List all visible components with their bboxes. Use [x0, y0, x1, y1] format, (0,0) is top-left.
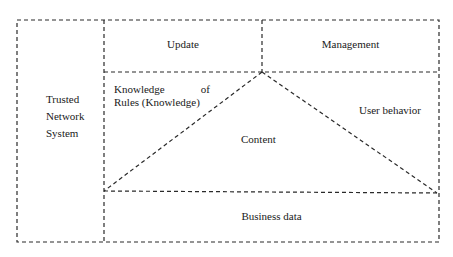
user-behavior-label: User behavior — [359, 104, 421, 117]
trusted-network-system-label: Trusted Network System — [46, 91, 85, 142]
left-label-line-2: Network — [46, 108, 85, 125]
business-data-label: Business data — [104, 210, 439, 223]
left-label-line-1: Trusted — [46, 91, 85, 108]
of-word: of — [201, 83, 210, 96]
management-cell-label: Management — [262, 38, 439, 51]
triangle-right-edge — [262, 72, 437, 193]
rules-knowledge-line: Rules (Knowledge) — [114, 96, 210, 109]
knowledge-word: Knowledge — [114, 83, 165, 96]
business-data-divider — [104, 191, 439, 193]
knowledge-rules-label: Knowledge of Rules (Knowledge) — [114, 83, 210, 109]
content-label: Content — [241, 133, 276, 146]
left-label-line-3: System — [46, 125, 85, 142]
update-cell-label: Update — [104, 38, 262, 51]
